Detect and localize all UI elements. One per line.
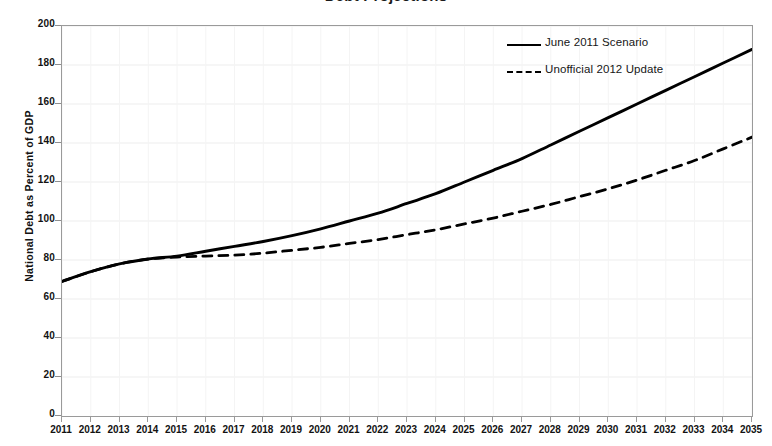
x-axis-tick-mark xyxy=(521,417,522,422)
x-axis-tick-mark xyxy=(61,417,62,422)
x-axis-tick-mark xyxy=(722,417,723,422)
x-axis-tick-mark xyxy=(377,417,378,422)
x-axis-tick-mark xyxy=(607,417,608,422)
y-axis-tick-label: 60 xyxy=(15,291,55,302)
legend-line-dashed-icon xyxy=(507,71,541,73)
y-axis-tick-label: 0 xyxy=(15,408,55,419)
legend-label: June 2011 Scenario xyxy=(545,36,648,48)
x-axis-tick-mark xyxy=(435,417,436,422)
x-axis-tick-mark xyxy=(751,417,752,422)
x-axis-tick-mark xyxy=(579,417,580,422)
legend-label: Unofficial 2012 Update xyxy=(545,63,663,75)
legend-line-solid-icon xyxy=(507,44,541,46)
y-axis-tick-label: 20 xyxy=(15,369,55,380)
x-axis-tick-mark xyxy=(291,417,292,422)
x-axis-tick-mark xyxy=(205,417,206,422)
x-axis-tick-label: 2035 xyxy=(731,424,771,435)
x-axis-tick-mark xyxy=(234,417,235,422)
y-axis-tick-label: 80 xyxy=(15,252,55,263)
x-axis-tick-mark xyxy=(464,417,465,422)
y-axis-tick-label: 120 xyxy=(15,174,55,185)
x-axis-labels: 2011201220132014201520162017201820192020… xyxy=(61,424,753,442)
y-axis-tick-label: 140 xyxy=(15,135,55,146)
y-axis-tick-label: 40 xyxy=(15,330,55,341)
x-axis-tick-mark xyxy=(636,417,637,422)
x-axis-tick-mark xyxy=(665,417,666,422)
x-axis-tick-mark xyxy=(349,417,350,422)
y-axis-tick-label: 100 xyxy=(15,213,55,224)
chart-title-cropped: Debt Projections xyxy=(0,0,772,5)
x-axis-tick-mark xyxy=(492,417,493,422)
x-axis-tick-mark xyxy=(406,417,407,422)
x-axis-tick-mark xyxy=(147,417,148,422)
x-axis-tick-mark xyxy=(262,417,263,422)
chart-legend: June 2011 Scenario Unofficial 2012 Updat… xyxy=(505,36,735,88)
x-axis-tick-mark xyxy=(320,417,321,422)
y-axis-title: National Debt as Percent of GDP xyxy=(23,96,35,296)
x-axis-tick-mark xyxy=(550,417,551,422)
x-axis-tick-mark xyxy=(90,417,91,422)
y-axis-tick-label: 160 xyxy=(15,96,55,107)
x-axis-tick-mark xyxy=(694,417,695,422)
y-axis-tick-label: 200 xyxy=(15,18,55,29)
y-axis-tick-label: 180 xyxy=(15,57,55,68)
x-axis-tick-mark xyxy=(176,417,177,422)
x-axis-tick-mark xyxy=(119,417,120,422)
debt-projection-chart: Debt Projections National Debt as Percen… xyxy=(0,0,772,446)
